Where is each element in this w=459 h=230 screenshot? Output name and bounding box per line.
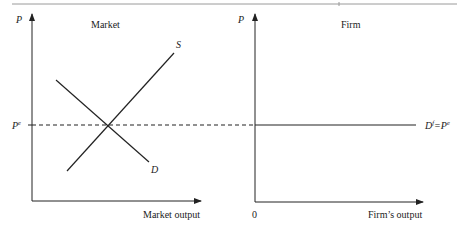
supply-curve (67, 53, 174, 171)
df-eq: =P (434, 120, 447, 131)
demand-curve-label: D (151, 165, 158, 175)
pe-sup: e (18, 119, 21, 126)
market-panel-title: Market (91, 20, 120, 30)
market-x-axis-label: Market output (143, 210, 200, 220)
firm-y-axis-label: P (238, 15, 244, 25)
diagram-canvas (0, 0, 459, 230)
firm-x-axis-label: Firm’s output (368, 210, 422, 220)
firm-demand-label: Df=Pe (425, 120, 450, 131)
firm-origin-label: 0 (252, 210, 257, 220)
supply-curve-label: S (176, 40, 181, 50)
df-sup2: e (447, 119, 450, 126)
firm-panel-title: Firm (341, 20, 360, 30)
equilibrium-price-label: Pe (12, 120, 21, 131)
demand-curve (56, 80, 149, 162)
market-y-axis-label: P (16, 15, 22, 25)
